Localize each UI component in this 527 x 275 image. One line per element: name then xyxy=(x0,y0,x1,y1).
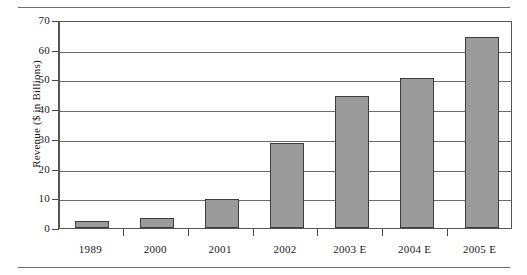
x-axis-tick-label: 2002 xyxy=(253,243,318,255)
y-axis-tick-label: 10 xyxy=(10,193,50,204)
y-axis-tick-label: 60 xyxy=(10,45,50,56)
y-axis-tick-label: 20 xyxy=(10,164,50,175)
bottom-divider-rule xyxy=(18,267,510,268)
bar xyxy=(335,96,369,228)
bar xyxy=(140,218,174,228)
y-axis-tick-label: 0 xyxy=(10,223,50,234)
x-axis-tick-label: 2003 E xyxy=(317,243,382,255)
bar xyxy=(205,199,239,228)
bar xyxy=(465,37,499,228)
x-axis-tick-mark xyxy=(382,229,383,236)
x-axis-tick-mark xyxy=(317,229,318,236)
x-axis-tick-label: 2004 E xyxy=(382,243,447,255)
plot-area xyxy=(58,21,512,229)
y-axis-tick-label: 30 xyxy=(10,134,50,145)
gridline xyxy=(60,141,511,142)
x-axis-tick-label: 2000 xyxy=(123,243,188,255)
y-axis-tick-mark xyxy=(52,229,59,230)
gridline xyxy=(60,111,511,112)
y-axis-tick-label: 50 xyxy=(10,74,50,85)
bar xyxy=(270,143,304,228)
x-axis-tick-mark xyxy=(123,229,124,236)
x-axis-tick-mark xyxy=(253,229,254,236)
x-axis-tick-mark xyxy=(188,229,189,236)
y-axis-tick-label: 40 xyxy=(10,104,50,115)
bar xyxy=(75,221,109,228)
top-divider-rule xyxy=(18,7,510,8)
x-axis-tick-label: 2001 xyxy=(188,243,253,255)
x-axis-tick-label: 1989 xyxy=(58,243,123,255)
y-axis-tick-label: 70 xyxy=(10,15,50,26)
gridline xyxy=(60,81,511,82)
x-axis-tick-label: 2005 E xyxy=(447,243,512,255)
bar-chart-figure: Revenue ($ in Billions) 010203040506070 … xyxy=(0,0,527,275)
x-axis-tick-mark xyxy=(447,229,448,236)
bar xyxy=(400,78,434,228)
gridline xyxy=(60,52,511,53)
